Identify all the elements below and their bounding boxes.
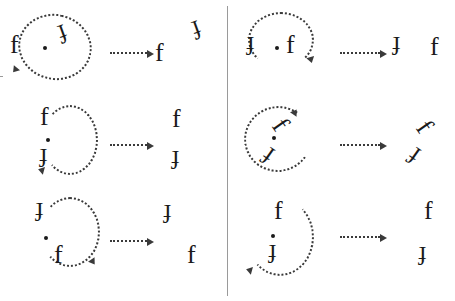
left-row-2: f f f f: [0, 100, 227, 184]
transform-arrow: [340, 52, 380, 56]
target-glyph-a: f: [424, 198, 433, 224]
right-row-1-source: f f: [228, 8, 343, 92]
right-row-2-source: f f: [228, 100, 343, 184]
rotation-arc: [42, 105, 98, 175]
target-glyph-a: f: [411, 116, 437, 138]
pivot-dot: [275, 46, 279, 50]
left-row-1-source: f f: [0, 8, 110, 92]
left-row-1-target: f f: [150, 8, 227, 92]
right-row-1: f f f f: [228, 8, 455, 92]
target-glyph-b: f: [171, 146, 180, 172]
rotation-arc: [40, 197, 100, 267]
target-glyph-a: f: [392, 32, 401, 58]
transform-arrow: [110, 52, 147, 56]
arc-arrowhead: [88, 257, 98, 267]
transform-arrow: [110, 240, 147, 244]
target-glyph-a: f: [155, 40, 164, 66]
left-row-3-source: f f: [0, 192, 110, 282]
left-row-2-source: f f: [0, 100, 110, 184]
target-glyph-b: f: [188, 15, 205, 42]
left-row-1: f f f f: [0, 8, 227, 92]
transform-arrow: [110, 144, 147, 148]
left-column: f f f f f f f f: [0, 0, 227, 301]
left-row-3-target: f f: [150, 192, 227, 282]
transform-arrow: [340, 236, 380, 240]
target-glyph-b: f: [418, 242, 427, 268]
rotation-arc: [239, 101, 317, 178]
arc-arrowhead: [245, 265, 253, 274]
pivot-dot: [272, 136, 276, 140]
pivot-dot: [44, 236, 48, 240]
rotation-arc-extension: [12, 7, 98, 87]
source-glyph-a: f: [10, 32, 19, 58]
source-glyph-b: f: [39, 144, 48, 170]
right-row-3-source: f f: [228, 190, 343, 285]
source-glyph-b: f: [54, 242, 63, 268]
target-glyph-a: f: [163, 200, 172, 226]
transform-arrow: [340, 144, 380, 148]
source-glyph-a: f: [246, 32, 255, 58]
pivot-dot: [46, 138, 50, 142]
source-glyph-a: f: [40, 104, 49, 130]
left-row-3: f f f f: [0, 192, 227, 282]
source-glyph-b: f: [286, 32, 295, 58]
source-glyph-b: f: [268, 240, 277, 266]
target-glyph-a: f: [172, 106, 181, 132]
target-glyph-b: f: [187, 242, 196, 268]
right-row-3: f f f f: [228, 190, 455, 285]
left-row-2-target: f f: [150, 100, 227, 184]
target-glyph-b: f: [403, 142, 425, 168]
source-glyph-a: f: [35, 198, 44, 224]
right-row-2-target: f f: [386, 100, 455, 184]
arc-arrowhead: [306, 56, 315, 64]
pivot-dot: [43, 46, 47, 50]
figure-canvas: f f f f f f f f: [0, 0, 455, 301]
right-row-3-target: f f: [386, 190, 455, 285]
pivot-dot: [271, 234, 275, 238]
right-row-1-target: f f: [386, 8, 455, 92]
right-column: f f f f f f f f: [228, 0, 455, 301]
arc-arrowhead: [10, 65, 20, 75]
target-glyph-b: f: [430, 34, 439, 60]
rotation-arc: [248, 12, 314, 68]
source-glyph-a: f: [274, 198, 283, 224]
right-row-2: f f f f: [228, 100, 455, 184]
